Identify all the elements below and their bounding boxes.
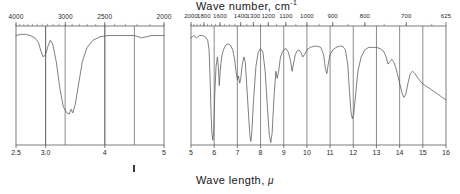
wave-length-tick-label: 15 <box>419 149 427 156</box>
ir-spectrum-left-panel <box>15 14 165 159</box>
ir-spectrum-figure: Wave number, cm-1 Wave length, μ 4000300… <box>0 0 460 194</box>
wave-number-tick-label: 1200 <box>261 13 275 19</box>
wave-length-tick-label: 4 <box>103 149 107 156</box>
wave-length-tick-label: 6 <box>212 149 216 156</box>
wave-number-tick-label: 1000 <box>300 13 314 19</box>
wave-length-tick-label: 12 <box>349 149 357 156</box>
wave-number-tick-label: 2000 <box>157 13 172 20</box>
wave-length-tick-label: 5 <box>189 149 193 156</box>
wave-number-tick-label: 1600 <box>213 13 227 19</box>
spectrum-trace <box>16 34 164 114</box>
wave-length-tick-label: 2.5 <box>11 149 21 156</box>
wave-length-tick-label: 13 <box>373 149 381 156</box>
wave-number-axis-title: Wave number, cm-1 <box>196 0 356 12</box>
wave-number-tick-label: 2000 <box>184 13 198 19</box>
wave-number-tick-label: 700 <box>401 13 411 19</box>
wave-length-tick-label: 10 <box>303 149 311 156</box>
wave-number-tick-label: 2500 <box>97 13 112 20</box>
wave-number-tick-label: 800 <box>360 13 370 19</box>
wave-length-tick-label: 7 <box>235 149 239 156</box>
wave-number-tick-label: 4000 <box>9 13 24 20</box>
page-fold-marker <box>133 165 135 172</box>
wave-length-tick-label: 11 <box>326 149 333 156</box>
wave-length-axis-title-text: Wave length, <box>196 174 268 186</box>
left-panel-plot <box>15 14 165 159</box>
wave-number-tick-label: 900 <box>328 13 338 19</box>
wave-length-tick-label: 9 <box>282 149 286 156</box>
wave-length-tick-label: 5 <box>162 149 166 156</box>
right-panel-plot <box>190 14 447 159</box>
micron-unit-symbol: μ <box>268 175 274 186</box>
wave-number-tick-label: 3000 <box>58 13 73 20</box>
wave-number-axis-title-text: Wave number, cm <box>196 0 290 12</box>
wave-length-tick-label: 8 <box>259 149 263 156</box>
wave-number-tick-label: 1100 <box>279 13 292 19</box>
wave-number-tick-label: 1400 <box>234 13 248 19</box>
wave-length-axis-title: Wave length, μ <box>196 174 396 186</box>
wave-number-tick-label: 625 <box>441 13 451 19</box>
wave-length-tick-label: 3.0 <box>41 149 51 156</box>
spectrum-trace <box>191 36 446 143</box>
wave-number-tick-label: 1800 <box>197 13 211 19</box>
wave-number-tick-label: 1300 <box>247 13 261 19</box>
ir-spectrum-right-panel <box>190 14 447 159</box>
wave-length-tick-label: 14 <box>396 149 404 156</box>
wave-length-tick-label: 16 <box>442 149 450 156</box>
wave-number-exponent: -1 <box>290 0 297 6</box>
